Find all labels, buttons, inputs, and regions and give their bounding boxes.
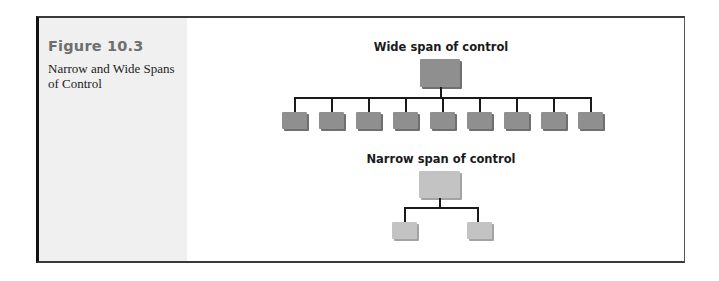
narrow-subordinate-node [392, 222, 417, 239]
wide-drop-line [294, 97, 296, 112]
wide-drop-line [368, 97, 370, 112]
wide-drop-line [479, 97, 481, 112]
wide-subordinate-node [467, 112, 492, 129]
wide-subordinate-node [578, 112, 603, 129]
wide-subordinate-node [319, 112, 344, 129]
figure-sidebar: Figure 10.3 Narrow and Wide Spans of Con… [39, 18, 187, 261]
narrow-subordinate-node [467, 222, 492, 239]
wide-subordinate-node [393, 112, 418, 129]
wide-drop-line [442, 97, 444, 112]
wide-drop-line [331, 97, 333, 112]
wide-subordinate-node [356, 112, 381, 129]
wide-subordinate-node [541, 112, 566, 129]
wide-manager-node [420, 59, 460, 87]
figure-caption: Narrow and Wide Spans of Control [48, 61, 188, 91]
wide-drop-line [590, 97, 592, 112]
wide-subordinate-node [430, 112, 455, 129]
figure-frame: Figure 10.3 Narrow and Wide Spans of Con… [36, 16, 685, 263]
figure-number: Figure 10.3 [48, 38, 144, 54]
narrow-manager-node [419, 171, 460, 198]
wide-span-title: Wide span of control [374, 40, 509, 54]
wide-subordinate-node [504, 112, 529, 129]
narrow-horizontal-line [404, 207, 479, 209]
wide-drop-line [553, 97, 555, 112]
wide-subordinate-node [282, 112, 307, 129]
narrow-drop-line-left [404, 207, 406, 222]
wide-drop-line [516, 97, 518, 112]
wide-drop-line [405, 97, 407, 112]
narrow-drop-line-right [477, 207, 479, 222]
narrow-span-title: Narrow span of control [366, 152, 515, 166]
